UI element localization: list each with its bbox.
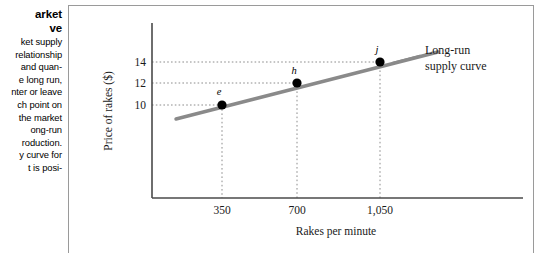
caption-body-line: nter or leave xyxy=(0,86,62,99)
caption-title-line: arket xyxy=(0,8,62,22)
data-point-label-h: h xyxy=(291,65,296,76)
supply-curve-chart: e h j 14 12 10 350 700 1,050 Rakes per m… xyxy=(68,5,538,243)
x-tick-label-1050: 1,050 xyxy=(367,204,393,217)
y-tick-label-14: 14 xyxy=(135,56,147,68)
caption-title-line: ve xyxy=(0,22,62,36)
caption-body-line: t is posi- xyxy=(0,162,62,175)
caption-body-line: the market xyxy=(0,112,62,125)
caption-body-line: ket supply xyxy=(0,36,62,49)
curve-label-leader-line xyxy=(393,56,420,63)
y-tick-label-12: 12 xyxy=(135,77,147,89)
caption-body: ket supply relationship and quan- e long… xyxy=(0,36,62,175)
caption-title: arket ve xyxy=(0,8,62,35)
x-axis-title: Rakes per minute xyxy=(296,225,376,238)
caption-body-line: relationship xyxy=(0,49,62,62)
caption-body-line: ch point on xyxy=(0,99,62,112)
curve-label-line-1: Long-run xyxy=(425,43,470,57)
caption-body-line: and quan- xyxy=(0,61,62,74)
chart-svg: e h j 14 12 10 350 700 1,050 Rakes per m… xyxy=(68,5,538,243)
y-tick-label-10: 10 xyxy=(135,99,147,111)
caption-body-line: y curve for xyxy=(0,149,62,162)
data-point-label-e: e xyxy=(217,86,222,97)
caption-body-line: roduction. xyxy=(0,137,62,150)
caption-body-line: ong-run xyxy=(0,124,62,137)
curve-label-line-2: supply curve xyxy=(425,59,487,73)
data-point-e xyxy=(217,100,226,109)
caption-body-line: e long run, xyxy=(0,74,62,87)
data-point-h xyxy=(292,78,301,87)
data-point-label-j: j xyxy=(374,44,379,55)
y-axis-title: Price of rakes ($) xyxy=(102,71,115,151)
x-tick-label-350: 350 xyxy=(213,204,231,216)
figure-caption: arket ve ket supply relationship and qua… xyxy=(0,8,62,175)
x-tick-label-700: 700 xyxy=(288,204,306,216)
data-point-j xyxy=(375,57,384,66)
